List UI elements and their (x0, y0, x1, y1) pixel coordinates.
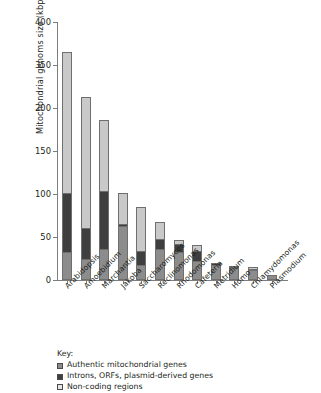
y-tick: 50 (57, 237, 58, 238)
bar[interactable] (81, 97, 91, 280)
y-tick: 200 (57, 108, 58, 109)
legend-item: Non-coding regions (57, 382, 213, 392)
y-tick: 150 (57, 151, 58, 152)
y-tick: 0 (57, 280, 58, 281)
bar-segment (81, 97, 91, 228)
legend-swatch (57, 363, 63, 369)
legend-swatch (57, 384, 63, 390)
bar-segment (155, 222, 165, 240)
bar[interactable] (62, 52, 72, 280)
y-tick-mark (53, 280, 57, 281)
y-tick-label: 150 (17, 146, 51, 156)
legend-label: Authentic mitochondrial genes (67, 360, 187, 370)
y-tick: 100 (57, 194, 58, 195)
bar-segment (136, 251, 146, 266)
y-tick-mark (53, 151, 57, 152)
chart-figure: Mitochondrial genoms size (kbp) 40035020… (0, 0, 321, 393)
bar-segment (99, 120, 109, 191)
legend-item: Authentic mitochondrial genes (57, 360, 213, 370)
y-tick-mark (53, 108, 57, 109)
bar-segment (136, 207, 146, 251)
legend-title: Key: (57, 349, 213, 359)
chart-legend: Key: Authentic mitochondrial genesIntron… (57, 349, 213, 393)
y-tick-label: 400 (17, 17, 51, 27)
y-tick-label: 0 (17, 275, 51, 285)
y-tick-label: 50 (17, 232, 51, 242)
bar-segment (99, 191, 109, 249)
plot-area: 400350200150100500 (57, 22, 287, 280)
y-tick-label: 100 (17, 189, 51, 199)
legend-items: Authentic mitochondrial genesIntrons, OR… (57, 360, 213, 392)
y-tick-mark (53, 65, 57, 66)
y-tick-mark (53, 22, 57, 23)
y-tick: 400 (57, 22, 58, 23)
y-tick-label: 200 (17, 103, 51, 113)
y-tick-mark (53, 194, 57, 195)
bar[interactable] (99, 120, 109, 280)
bar-segment (62, 193, 72, 252)
y-tick-mark (53, 237, 57, 238)
legend-label: Introns, ORFs, plasmid-derived genes (67, 371, 213, 381)
bar-segment (118, 193, 128, 224)
bar-segment (81, 228, 91, 259)
bar-segment (62, 52, 72, 194)
y-tick-label: 350 (17, 60, 51, 70)
x-axis-labels: ArabidopsisAmoebidiumMarchantiaJakobaSac… (57, 284, 297, 354)
legend-label: Non-coding regions (67, 382, 143, 392)
y-tick: 350 (57, 65, 58, 66)
legend-swatch (57, 374, 63, 380)
legend-item: Introns, ORFs, plasmid-derived genes (57, 371, 213, 381)
